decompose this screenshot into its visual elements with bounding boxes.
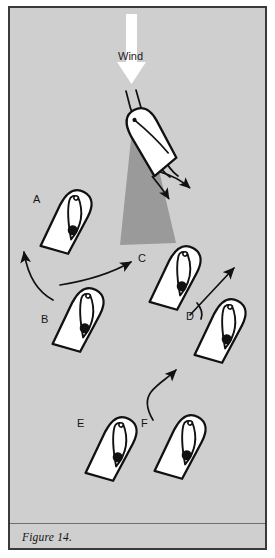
- diagram-canvas: [0, 0, 275, 558]
- caption-divider: [10, 523, 265, 524]
- arrow-f-up: [147, 370, 176, 420]
- boat-label-A: A: [33, 194, 40, 205]
- arrow-b-to-a: [24, 252, 53, 300]
- wind-label: Wind: [118, 50, 143, 62]
- boat-B: [51, 283, 109, 357]
- sailing-diagram-svg: [0, 0, 275, 558]
- wind-arrow: [117, 14, 146, 84]
- boat-E: [84, 412, 142, 486]
- boat-label-C: C: [138, 253, 146, 264]
- boat-F: [153, 410, 211, 484]
- boat-A: [39, 185, 97, 259]
- arrow-b-to-c: [60, 262, 131, 285]
- boat-D: [193, 294, 251, 368]
- figure-caption: Figure 14.: [22, 531, 72, 543]
- boat-label-B: B: [41, 314, 48, 325]
- figure-container: Wind A B C D E F Figure 14.: [0, 0, 275, 558]
- boat-label-E: E: [77, 418, 84, 429]
- boat-label-D: D: [186, 311, 194, 322]
- boat-label-F: F: [141, 418, 148, 429]
